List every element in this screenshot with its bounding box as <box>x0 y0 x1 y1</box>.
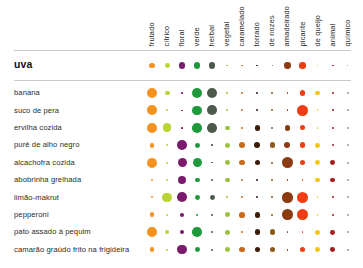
bubble-r1-verde <box>192 106 202 116</box>
bubble-r4-herbal <box>211 162 213 164</box>
bubble-r1-de-nozes <box>271 109 273 111</box>
bubble-r8-de-nozes <box>270 229 276 235</box>
bubble-r5-cítrico <box>166 179 168 181</box>
bubble-r0-de-nozes <box>271 92 273 94</box>
bubble-r9-frutado <box>150 247 155 252</box>
bubble-uva-herbal <box>209 62 215 68</box>
bubble-r2-vegetal <box>225 126 230 131</box>
bubble-r7-floral <box>180 213 185 218</box>
bubble-r1-torrado <box>256 109 258 111</box>
bubble-r0-caramelado <box>241 92 243 94</box>
column-header-cítrico: cítrico <box>163 25 170 46</box>
column-header-amadeirado: amadeirado <box>283 5 290 46</box>
bubble-r9-cítrico <box>166 249 168 251</box>
bubble-r4-verde <box>193 158 202 167</box>
bubble-r4-de-nozes <box>271 162 273 164</box>
bubble-r6-amadeirado <box>282 192 292 202</box>
bubble-r5-torrado <box>256 179 258 181</box>
bubble-uva-verde <box>194 62 200 68</box>
bubble-uva-animal <box>332 65 334 67</box>
bubble-r7-frutado <box>150 212 155 217</box>
bubble-r8-floral <box>180 230 185 235</box>
bubble-r3-de-queijo <box>315 143 320 148</box>
bubble-r9-de-nozes <box>270 247 276 253</box>
bubble-r8-caramelado <box>241 231 243 233</box>
bubble-r1-cítrico <box>166 109 168 111</box>
bubble-r4-cítrico <box>166 162 168 164</box>
bubble-uva-floral <box>179 62 185 68</box>
bubble-r9-herbal <box>211 249 213 251</box>
bubble-r4-de-queijo <box>315 160 320 165</box>
bubble-r7-torrado <box>255 212 261 218</box>
bubble-r4-vegetal <box>225 160 230 165</box>
bubble-r3-frutado <box>150 143 155 148</box>
rule-below-highlight <box>14 80 351 81</box>
bubble-r5-vegetal <box>225 178 230 183</box>
bubble-r7-amadeirado <box>282 209 293 220</box>
bubble-r2-herbal <box>207 123 217 133</box>
bubble-r5-de-nozes <box>271 179 273 181</box>
bubble-r8-torrado <box>255 229 261 235</box>
bubble-r4-floral <box>178 158 187 167</box>
bubble-r9-verde <box>195 247 200 252</box>
bubble-r6-torrado <box>256 196 258 198</box>
column-header-picante: picante <box>298 21 305 46</box>
bubble-matrix-chart: frutadocítricofloralverdeherbalvegetalca… <box>0 0 363 268</box>
column-header-químico: químico <box>343 19 350 46</box>
bubble-r5-frutado <box>151 179 153 181</box>
row-label: abobrinha grelhada <box>14 176 81 184</box>
column-header-de-nozes: de nozes <box>268 15 275 46</box>
bubble-r6-cítrico <box>162 193 172 203</box>
bubble-r4-químico <box>347 162 349 164</box>
bubble-r2-torrado <box>255 125 261 131</box>
bubble-r2-picante <box>300 125 305 130</box>
bubble-r9-picante <box>300 247 306 253</box>
row-label: limão-makrut <box>14 194 59 202</box>
bubble-r6-de-nozes <box>271 196 273 198</box>
bubble-r2-de-queijo <box>317 127 319 129</box>
bubble-r7-caramelado <box>239 212 245 218</box>
bubble-r6-de-queijo <box>317 196 319 198</box>
row-label: ervilha cozida <box>14 124 62 132</box>
bubble-r8-amadeirado <box>287 231 289 233</box>
bubble-r3-verde <box>195 143 200 148</box>
column-header-floral: floral <box>178 29 185 46</box>
bubble-r6-floral <box>177 192 187 202</box>
bubble-r7-de-nozes <box>271 214 273 216</box>
bubble-r3-amadeirado <box>284 142 290 148</box>
bubble-r2-de-nozes <box>271 127 273 129</box>
bubble-r8-vegetal <box>225 230 230 235</box>
bubble-uva-químico <box>347 65 349 67</box>
bubble-r9-animal <box>330 247 335 252</box>
bubble-r8-herbal <box>211 231 213 233</box>
bubble-r7-cítrico <box>166 214 168 216</box>
bubble-r2-químico <box>347 127 349 129</box>
bubble-r0-picante <box>300 90 305 95</box>
bubble-r3-animal <box>332 144 334 146</box>
row-label: alcachofra cozida <box>14 159 75 167</box>
bubble-r2-animal <box>332 127 334 129</box>
bubble-r8-verde <box>192 227 202 237</box>
bubble-r8-de-queijo <box>315 230 320 235</box>
bubble-r7-picante <box>297 209 308 220</box>
bubble-r6-verde <box>195 195 200 200</box>
bubble-r6-caramelado <box>241 196 243 198</box>
bubble-r7-de-queijo <box>317 214 319 216</box>
bubble-uva-frutado <box>149 63 155 69</box>
bubble-r1-vegetal <box>226 109 228 111</box>
bubble-uva-torrado <box>256 65 258 67</box>
bubble-r6-frutado <box>151 196 153 198</box>
bubble-r5-amadeirado <box>287 179 289 181</box>
bubble-r0-amadeirado <box>287 92 289 94</box>
bubble-r7-animal <box>332 214 334 216</box>
bubble-r8-animal <box>330 230 335 235</box>
bubble-uva-amadeirado <box>284 62 290 68</box>
bubble-r8-frutado <box>147 227 157 237</box>
bubble-uva-cítrico <box>165 63 170 68</box>
bubble-r3-de-nozes <box>270 142 276 148</box>
bubble-r4-animal <box>330 160 335 165</box>
column-header-row: frutadocítricofloralverdeherbalvegetalca… <box>0 0 363 48</box>
bubble-r3-químico <box>347 144 349 146</box>
bubble-r5-herbal <box>211 179 213 181</box>
row-label: pato assado à pequim <box>14 228 91 236</box>
